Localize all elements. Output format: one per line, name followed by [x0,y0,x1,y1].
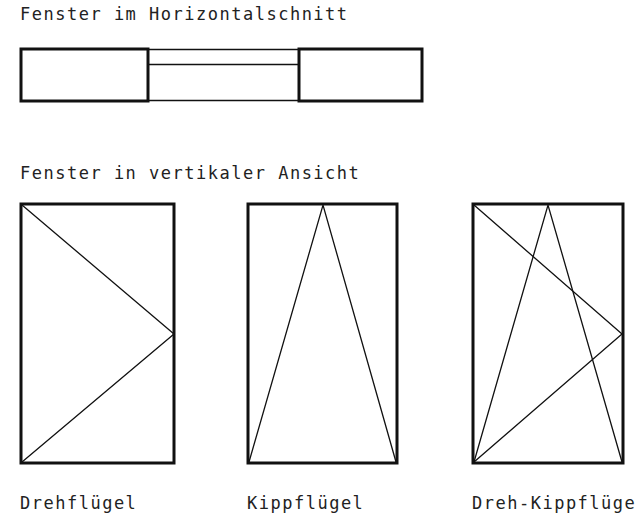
label-dreh-kippfluegel: Dreh-Kippflüge [472,493,636,513]
window-drehfluegel [21,204,174,463]
window-dreh-kippfluegel [473,204,623,463]
horizontal-section [21,49,422,101]
label-drehfluegel: Drehflügel [20,493,137,513]
right-frame-block [299,49,422,101]
section-title-horizontal: Fenster im Horizontalschnitt [20,4,349,24]
window-kippfluegel [248,204,397,463]
section-title-vertical: Fenster in vertikaler Ansicht [20,163,360,183]
label-kippfluegel: Kippflügel [247,493,364,513]
left-frame-block [21,49,148,101]
